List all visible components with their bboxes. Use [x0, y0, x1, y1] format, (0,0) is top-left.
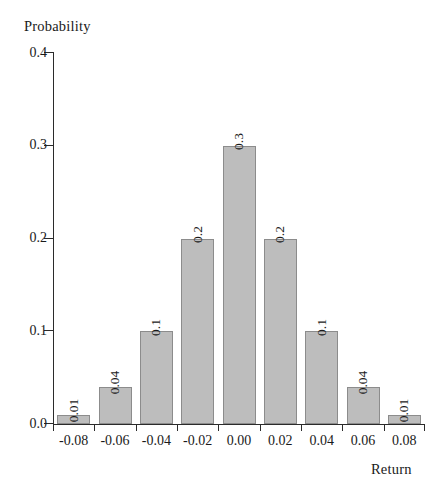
bar: 0.2: [264, 239, 297, 425]
y-tick: 0.4: [53, 52, 54, 53]
x-tick-label: 0.06: [351, 434, 376, 448]
bar-value-label: 0.01: [60, 399, 74, 423]
x-tick-mark: [260, 424, 261, 431]
bar-value-label: 0.04: [102, 371, 116, 395]
x-tick-label: -0.02: [183, 434, 212, 448]
bar: 0.2: [181, 239, 214, 425]
chart-canvas: Probability 0.00.10.20.30.4 -0.08-0.06-0…: [0, 0, 444, 493]
x-tick-mark: [218, 424, 219, 431]
bar-value-label: 0.04: [350, 371, 364, 395]
y-tick-label: 0.2: [30, 231, 48, 245]
x-tick-label: 0.02: [268, 434, 293, 448]
y-axis-title: Probability: [24, 18, 91, 35]
x-axis-title: Return: [371, 461, 412, 478]
bar-value-label: 0.2: [267, 226, 281, 243]
bar-value-label: 0.2: [184, 226, 198, 243]
bar-value-label: 0.1: [308, 319, 322, 336]
bar: 0.04: [347, 387, 380, 424]
x-tick-label: 0.00: [227, 434, 252, 448]
bar: 0.04: [99, 387, 132, 424]
x-tick-label: 0.04: [309, 434, 334, 448]
bar-value-label: 0.3: [226, 133, 240, 150]
x-tick-label: -0.06: [100, 434, 129, 448]
y-tick-label: 0.0: [30, 417, 48, 431]
bar: 0.1: [305, 331, 338, 424]
x-tick-mark: [94, 424, 95, 431]
bar: 0.1: [140, 331, 173, 424]
x-tick-mark: [177, 424, 178, 431]
bar: 0.3: [223, 146, 256, 424]
y-tick-label: 0.1: [30, 324, 48, 338]
y-tick: 0.2: [53, 238, 54, 239]
y-tick: 0.3: [53, 145, 54, 146]
y-axis-line: [53, 53, 54, 425]
x-tick-label: -0.08: [59, 434, 88, 448]
y-tick-label: 0.4: [30, 46, 48, 60]
bar: 0.01: [57, 415, 90, 424]
x-tick-label: 0.08: [392, 434, 417, 448]
x-axis-line: [53, 424, 425, 425]
x-tick-mark: [136, 424, 137, 431]
bar: 0.01: [388, 415, 421, 424]
y-tick: 0.1: [53, 330, 54, 331]
x-tick-mark: [301, 424, 302, 431]
y-tick-label: 0.3: [30, 138, 48, 152]
bar-value-label: 0.01: [391, 399, 405, 423]
x-tick-label: -0.04: [142, 434, 171, 448]
x-tick-mark: [424, 424, 425, 431]
plot-area: 0.00.10.20.30.4 -0.08-0.06-0.04-0.020.00…: [53, 53, 425, 425]
bar-value-label: 0.1: [143, 319, 157, 336]
x-tick-mark: [342, 424, 343, 431]
x-tick-mark: [384, 424, 385, 431]
x-tick-mark: [53, 424, 54, 431]
